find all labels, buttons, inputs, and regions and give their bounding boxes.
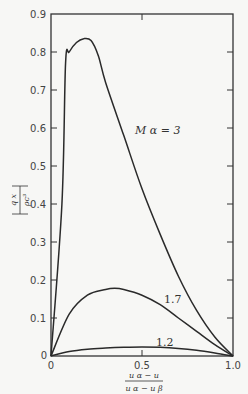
x-tick-label: 1.0 — [225, 360, 241, 371]
y-tick-label: 0.6 — [30, 123, 46, 134]
series-label: 1.7 — [164, 293, 182, 306]
series-label: 1.2 — [156, 336, 174, 349]
y-tick-label: 0.8 — [30, 47, 46, 58]
x-axis: 00.51.0 — [48, 14, 241, 371]
y-axis: 00.10.20.30.40.50.60.70.80.9 — [30, 9, 233, 361]
series-label: M α = 3 — [134, 124, 180, 137]
y-tick-label: 0.1 — [30, 313, 46, 324]
y-tick-label: 0 — [41, 350, 47, 361]
y-label-numerator: q x — [9, 193, 18, 206]
curves — [51, 38, 233, 356]
y-tick-label: 0.2 — [30, 275, 46, 286]
y-tick-label: 0.5 — [30, 161, 46, 172]
x-tick-label: 0.5 — [134, 360, 150, 371]
x-tick-label: 0 — [48, 360, 54, 371]
y-tick-label: 0.7 — [30, 85, 46, 96]
x-label-denominator: u α − u β — [125, 384, 163, 393]
curve-0 — [51, 38, 233, 356]
y-label-denominator: ρc³ — [22, 194, 31, 207]
plot-frame — [51, 14, 233, 356]
y-tick-label: 0.9 — [30, 9, 46, 20]
curve-1 — [51, 288, 233, 356]
y-tick-label: 0.4 — [30, 199, 46, 210]
chart: 00.10.20.30.40.50.60.70.80.9 00.51.0 M α… — [0, 0, 248, 394]
y-tick-label: 0.3 — [30, 237, 46, 248]
x-label-numerator: u α − u — [129, 371, 159, 380]
